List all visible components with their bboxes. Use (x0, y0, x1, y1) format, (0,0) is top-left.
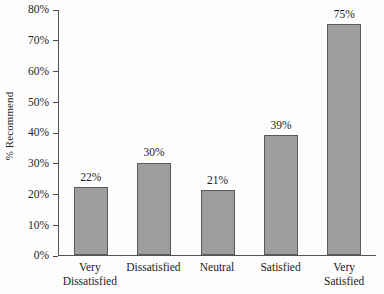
bar-group: 21% (186, 10, 249, 255)
bar (74, 187, 108, 255)
y-axis-title: % Recommend (0, 0, 18, 252)
x-axis-tick-label-line: Neutral (185, 260, 249, 274)
y-axis: 0%10%20%30%40%50%60%70%80% (18, 0, 58, 256)
x-axis-tick-label-line: Very (312, 260, 376, 274)
x-axis-tick-label: Dissatisfied (122, 258, 186, 294)
bar-value-label: 39% (270, 120, 291, 132)
x-axis-tick-label-line: Very (58, 260, 122, 274)
y-axis-tick-label: 20% (28, 189, 53, 201)
y-axis-tick-label: 60% (28, 66, 53, 78)
y-axis-tick-label: 30% (28, 158, 53, 170)
bar-value-label: 22% (80, 172, 101, 184)
x-axis-tick-label-line: Dissatisfied (58, 274, 122, 288)
bar-group: 30% (122, 10, 185, 255)
x-axis-tick-label: VeryDissatisfied (58, 258, 122, 294)
y-axis-tick-label: 80% (28, 4, 53, 16)
x-axis-tick-label: Neutral (185, 258, 249, 294)
y-axis-tick-label: 50% (28, 97, 53, 109)
x-axis: VeryDissatisfiedDissatisfiedNeutralSatis… (58, 258, 376, 294)
bar (264, 135, 298, 255)
y-axis-tick-label: 40% (28, 127, 53, 139)
x-axis-tick-label-line: Satisfied (249, 260, 313, 274)
bar-value-label: 21% (207, 175, 228, 187)
y-axis-tick-label: 70% (28, 35, 53, 47)
x-axis-tick-label: VerySatisfied (312, 258, 376, 294)
bar (201, 190, 235, 255)
y-axis-title-text: % Recommend (3, 92, 15, 161)
bar-group: 75% (313, 10, 376, 255)
x-axis-tick-label-line: Dissatisfied (122, 260, 186, 274)
bars-layer: 22%30%21%39%75% (59, 10, 376, 255)
bar-chart: % Recommend 0%10%20%30%40%50%60%70%80% 2… (0, 0, 384, 294)
bar-value-label: 30% (144, 147, 165, 159)
y-axis-tick-label: 0% (34, 250, 53, 262)
bar-value-label: 75% (334, 9, 355, 21)
bar-group: 22% (59, 10, 122, 255)
bar-group: 39% (249, 10, 312, 255)
bar (137, 163, 171, 255)
x-axis-tick-label-line: Satisfied (312, 274, 376, 288)
bar (327, 24, 361, 255)
y-axis-tick-label: 10% (28, 220, 53, 232)
x-axis-tick-label: Satisfied (249, 258, 313, 294)
plot-area: 22%30%21%39%75% (58, 10, 376, 256)
